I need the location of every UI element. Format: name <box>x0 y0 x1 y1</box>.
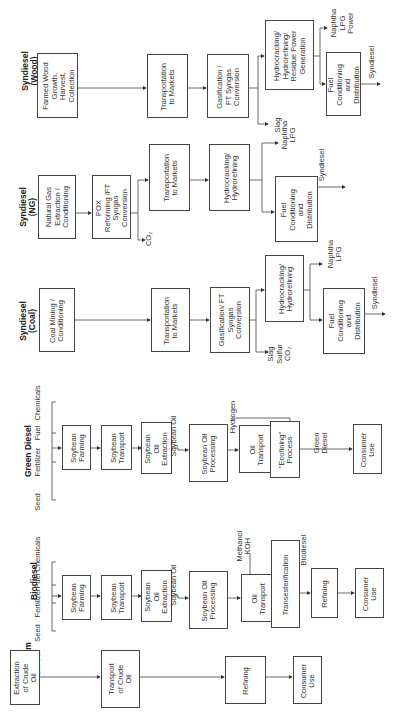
box-soybean-oil-processing: Soybean Oil Processing <box>189 424 228 482</box>
box-extraction-crude-oil: Extraction of Crude Oil <box>10 650 40 705</box>
flow-label-co2: CO₂ <box>144 230 154 248</box>
box-pox-reforming-ft-syngas: POX Reforming /FT Syngas Conversion <box>92 175 131 239</box>
flow-label-slag: Slag <box>273 115 283 135</box>
flow-label-naphtha-lpg: Naphtha LPG <box>325 237 345 271</box>
flow-label-methanol-koh: Methanol KOH <box>233 530 255 562</box>
box-fuel-conditioning-distribution: Fuel Conditioning and Distribution <box>326 52 361 116</box>
box-transportation-to-markets: Transportation to Markets <box>147 54 188 118</box>
box-farmed-wood-growth: Farmed Wood Growth, Harvest, Collection <box>37 53 78 118</box>
box-ecofining-process: "Ecofining" Process <box>270 421 300 478</box>
flow-label-syndiesel: Syndiesel <box>317 145 327 185</box>
box-transesterification: Transesterification <box>271 540 300 628</box>
flow-label-syndiesel: Syndiesel <box>367 42 377 82</box>
input-fuel: Fuel <box>33 573 43 589</box>
box-refining: Refining <box>225 656 266 704</box>
column-title-syndiesel-ng: Syndiesel (NG) <box>17 185 39 229</box>
input-fuel: Fuel <box>33 425 43 441</box>
box-soybean-oil-extraction: Soybean Oil Extraction <box>141 422 172 474</box>
flow-label-syndiesel: Syndiesel <box>370 273 380 313</box>
input-chemicals: Chemicals <box>33 387 43 419</box>
fuel-pathway-diagram: Petroleum Diesel Extraction of Crude Oil… <box>0 0 405 716</box>
box-consumer-use: Consumer Use <box>293 656 322 704</box>
flow-label-soybean-oil: Soybean Oil <box>169 561 179 609</box>
box-fuel-conditioning-distribution: Fuel Conditioning and Distribution <box>275 176 318 242</box>
flow-label-naphtha-lpg-power: Naphtha LPG Power <box>328 6 358 40</box>
flow-label-soybean-oil: Soybean Oil <box>169 412 179 460</box>
flow-label-hydrogen: Hydrogen <box>228 397 238 437</box>
box-gasification-ft-syngas: Gasification/ FT Syngas Conversion <box>210 287 250 353</box>
box-coal-mining-conditioning: Coal Mining / Conditioning <box>39 288 75 352</box>
box-soybean-oil-processing: Soybean Oil Processing <box>189 571 228 629</box>
box-fuel-conditioning-distribution: Fuel Conditioning and Distribution <box>323 288 365 354</box>
box-hydrocracking-hydrorefining: Hydrocracking/ Hydrorefining <box>265 255 304 322</box>
box-consumer-use: Consumer Use <box>355 568 384 618</box>
box-hydrocracking-residue-power: Hydrocracking/ Hydrorefining/ Residue Po… <box>265 20 314 90</box>
input-seed: Seed <box>33 491 43 513</box>
flow-label-slag-sulfur-co2: Slag Sulfur CO₂ <box>266 336 294 372</box>
box-refining: Refining <box>311 568 338 618</box>
box-transportation-to-markets: Transportation to Markets <box>151 288 190 352</box>
box-transport-crude-oil: Transport of Crude Oil <box>101 650 140 708</box>
input-fertilizer: Fertilizer <box>33 585 43 621</box>
box-transportation-to-markets: Transportation to Markets <box>149 144 190 211</box>
box-hydrocracking-hydrorefining: Hydrocracking/ Hydrorefining <box>209 144 250 211</box>
box-soybean-transport: Soybean Transport <box>101 425 132 470</box>
input-fertilizer: Fertilizer <box>33 444 43 480</box>
input-chemicals: Chemicals <box>33 538 43 570</box>
box-soybean-farming: Soybean Farming <box>62 575 91 620</box>
box-soybean-farming: Soybean Farming <box>62 425 91 470</box>
flow-label-green-diesel: Green Diesel <box>310 428 332 458</box>
input-seed: Seed <box>33 622 43 644</box>
box-soybean-oil-extraction: Soybean Oil Extraction <box>141 570 172 622</box>
box-soybean-transport: Soybean Transport <box>101 575 132 620</box>
flow-label-biodiesel: Biodiesel <box>299 532 309 568</box>
column-title-syndiesel-coal: Syndiesel (Coal) <box>17 299 39 343</box>
box-natural-gas-extraction: Natural Gas Extraction / Conditioning <box>38 175 76 239</box>
box-consumer-use: Consumer Use <box>353 424 382 474</box>
box-gasification-ft-syngas: Gasification / FT Syngas Conversion <box>207 54 249 118</box>
